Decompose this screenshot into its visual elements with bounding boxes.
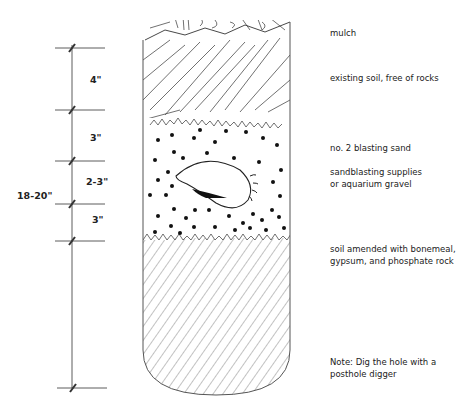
label-sand-source: sandblasting suppliesor aquarium gravel <box>330 166 422 190</box>
dim-sand-top: 3" <box>90 132 102 143</box>
dim-sand-bottom: 3" <box>92 214 104 225</box>
label-mulch: mulch <box>330 27 356 39</box>
label-blasting-sand: no. 2 blasting sand <box>330 142 411 154</box>
planting-diagram <box>0 0 474 409</box>
label-amended-soil: soil amended with bonemeal,gypsum, and p… <box>330 243 456 267</box>
label-existing-soil: existing soil, free of rocks <box>330 72 439 84</box>
dim-total: 18-20" <box>17 190 52 201</box>
dim-bulb: 2-3" <box>86 176 108 187</box>
mulch-layer <box>150 14 285 30</box>
dim-existing-soil: 4" <box>90 74 102 85</box>
existing-soil-layer <box>143 22 290 120</box>
amended-soil-layer <box>143 238 290 398</box>
label-note: Note: Dig the hole with aposthole digger <box>330 356 436 380</box>
